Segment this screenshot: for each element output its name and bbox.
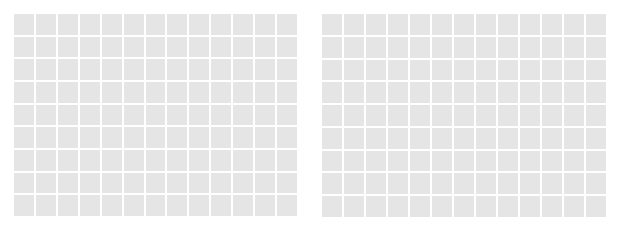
grid-cell [520, 14, 540, 35]
grid-cell [233, 105, 253, 126]
grid-cell [432, 128, 452, 149]
grid-cell [542, 60, 562, 81]
grid-cell [124, 173, 144, 194]
grid-cell [542, 14, 562, 35]
grid-cell [36, 127, 56, 148]
grid-cell [58, 14, 78, 35]
grid-cell [255, 82, 275, 103]
grid-cell [80, 105, 100, 126]
grid-cell [277, 59, 297, 80]
grid-cell [388, 196, 408, 217]
grid-cell [322, 82, 342, 103]
grid-cell [255, 59, 275, 80]
grid-cell [322, 14, 342, 35]
grid-cell [124, 195, 144, 216]
grid-cell [322, 37, 342, 58]
grid-cell [14, 59, 34, 80]
grid-cell [146, 127, 166, 148]
grid-cell [542, 196, 562, 217]
grid-cell [344, 196, 364, 217]
grid-cell [388, 37, 408, 58]
grid-cell [322, 105, 342, 126]
grid-cell [167, 195, 187, 216]
grid-cell [277, 105, 297, 126]
grid-cell [322, 196, 342, 217]
grid-cell [146, 59, 166, 80]
grid-cell [102, 14, 122, 35]
grid-cell [80, 14, 100, 35]
grid-cell [410, 14, 430, 35]
grid-cell [586, 151, 606, 172]
grid-cell [322, 128, 342, 149]
grid-cell [189, 127, 209, 148]
grid-cell [277, 37, 297, 58]
grid-cell [211, 173, 231, 194]
grid-cell [233, 127, 253, 148]
grid-cell [388, 128, 408, 149]
grid-cell [454, 173, 474, 194]
grid-cell [36, 37, 56, 58]
grid-cell [167, 127, 187, 148]
grid-cell [410, 60, 430, 81]
grid-cell [454, 82, 474, 103]
grid-cell [498, 173, 518, 194]
grid-cell [388, 14, 408, 35]
grid-cell [564, 196, 584, 217]
grid-cell [586, 128, 606, 149]
grid-cell [36, 14, 56, 35]
grid-cell [124, 37, 144, 58]
grid-cell [520, 196, 540, 217]
grid-cell [189, 82, 209, 103]
grid-cell [322, 173, 342, 194]
grid-cell [233, 14, 253, 35]
grid-cell [388, 173, 408, 194]
grid-cell [344, 60, 364, 81]
grid-cell [255, 195, 275, 216]
grid-cell [80, 195, 100, 216]
grid-cell [14, 195, 34, 216]
grid-cell [233, 150, 253, 171]
grid-cell [344, 105, 364, 126]
grid-cell [80, 82, 100, 103]
grid-cell [454, 128, 474, 149]
grid-cell [102, 37, 122, 58]
grid-cell [124, 127, 144, 148]
grid-cell [277, 150, 297, 171]
grid-cell [211, 14, 231, 35]
grid-cell [124, 105, 144, 126]
grid-cell [542, 105, 562, 126]
grid-cell [277, 14, 297, 35]
grid-cell [36, 59, 56, 80]
grid-cell [476, 151, 496, 172]
grid-cell [388, 151, 408, 172]
grid-cell [255, 37, 275, 58]
grid-cell [410, 105, 430, 126]
grid-cell [167, 59, 187, 80]
grid-cell [564, 128, 584, 149]
grid-cell [410, 151, 430, 172]
grid-cell [432, 82, 452, 103]
grid-cell [366, 105, 386, 126]
grid-cell [58, 173, 78, 194]
grid-cell [520, 82, 540, 103]
grid-cell [211, 82, 231, 103]
grid-cell [498, 37, 518, 58]
grid-cell [498, 60, 518, 81]
grid-cell [432, 151, 452, 172]
grid-cell [542, 128, 562, 149]
grid-cell [454, 60, 474, 81]
grid-cell [388, 82, 408, 103]
grid-cell [542, 37, 562, 58]
grid-cell [520, 105, 540, 126]
grid-cell [211, 195, 231, 216]
grid-cell [586, 60, 606, 81]
grid-cell [586, 196, 606, 217]
grid-cell [36, 173, 56, 194]
grid-cell [255, 150, 275, 171]
grid-cell [189, 37, 209, 58]
grid-cell [211, 105, 231, 126]
grid-cell [233, 37, 253, 58]
grid-cell [366, 37, 386, 58]
grid-cell [476, 82, 496, 103]
grid-cell [432, 60, 452, 81]
